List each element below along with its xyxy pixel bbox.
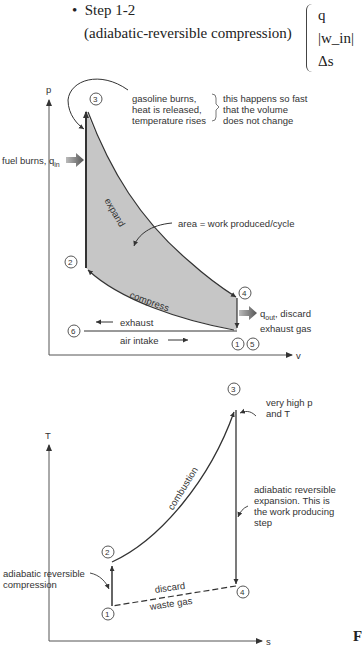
air-intake-label: air intake <box>120 335 159 346</box>
figure-caption-fragment: F <box>353 628 362 645</box>
pv-point-3-label: 3 <box>93 94 97 105</box>
pv-point-5-label: 5 <box>250 339 254 350</box>
expansion-line-3: the work producing <box>254 506 336 517</box>
fuel-burns-text: fuel burns, q <box>2 155 54 166</box>
expansion-line-4: step <box>254 517 336 528</box>
qout-rest: , discard <box>275 308 311 319</box>
qin-arrow-icon <box>66 153 84 167</box>
fuel-burns-label: fuel burns, qin <box>2 155 60 170</box>
ts-point-2-label: 2 <box>105 547 109 558</box>
very-high-note: very high p and T <box>266 397 312 419</box>
exhaust-label: exhaust <box>120 317 153 328</box>
ts-point-1-label: 1 <box>105 609 109 620</box>
expansion-pointer-icon <box>238 506 248 517</box>
fast-note-line-2: that the volume <box>223 104 308 115</box>
ts-point-4-label: 4 <box>240 587 244 598</box>
very-high-pointer-icon <box>240 411 256 416</box>
pv-point-4-label: 4 <box>242 288 246 299</box>
expansion-note: adiabatic reversible expansion. This is … <box>254 484 336 528</box>
fast-note: this happens so fast that the volume doe… <box>223 93 308 126</box>
qout-arrow-icon <box>239 306 257 320</box>
fast-note-line-1: this happens so fast <box>223 93 308 104</box>
qout-label: qout, discard exhaust gas <box>260 308 311 334</box>
ts-curve-2-3 <box>112 412 234 562</box>
expansion-line-1: adiabatic reversible <box>254 484 336 495</box>
T-axis-label: T <box>45 430 51 441</box>
exhaust-gas-text: exhaust gas <box>260 323 311 334</box>
fuel-burns-sub: in <box>54 161 59 168</box>
expansion-line-2: expansion. This is <box>254 495 336 506</box>
p-axis-label: p <box>46 84 51 95</box>
heat-release-line-3: temperature rises <box>132 115 206 126</box>
compression-pointer-icon <box>90 573 109 589</box>
compression-line-1: adiabatic reversible <box>3 568 85 579</box>
heat-release-line-2: heat is released, <box>132 104 206 115</box>
area-label: area = work produced/cycle <box>178 218 294 229</box>
bracket-icon <box>212 94 219 121</box>
heat-release-line-1: gasoline burns, <box>132 93 206 104</box>
v-axis-label: v <box>296 350 301 361</box>
very-high-line-2: and T <box>266 408 312 419</box>
heat-release-note: gasoline burns, heat is released, temper… <box>132 93 206 126</box>
qout-sub: out <box>265 314 275 321</box>
fast-note-line-3: does not change <box>223 115 308 126</box>
ts-point-3-label: 3 <box>231 384 235 395</box>
compression-line-2: compression <box>3 579 85 590</box>
pv-point-2-label: 2 <box>68 257 72 268</box>
pv-point-6-label: 6 <box>71 326 75 337</box>
compression-note: adiabatic reversible compression <box>3 568 85 590</box>
very-high-line-1: very high p <box>266 397 312 408</box>
s-axis-label: s <box>266 636 271 646</box>
pv-point-1-label: 1 <box>235 339 239 350</box>
